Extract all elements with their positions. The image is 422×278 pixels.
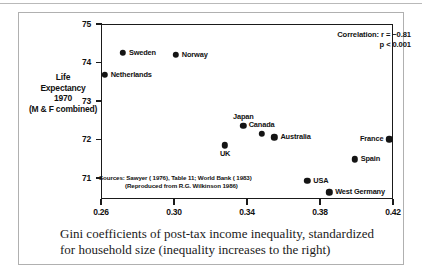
y-axis-tick-label: 74 [67, 57, 91, 67]
y-axis-tick-label: 73 [67, 96, 91, 106]
figure-caption: Gini coefficients of post-tax income ine… [60, 226, 390, 258]
data-point-label: West Germany [335, 188, 385, 196]
correlation-annotation: Correlation: r = −0.81 p < 0.001 [337, 30, 411, 49]
y-axis-tick [96, 100, 102, 101]
x-axis-tick-label: 0.42 [375, 207, 411, 217]
y-axis-tick-label: 71 [67, 173, 91, 183]
y-axis-label: Life Expectancy 1970 (M & F combined) [26, 72, 100, 114]
y-axis-label-line-2: Expectancy [26, 83, 100, 94]
data-point-label: Netherlands [111, 71, 152, 79]
y-axis-tick-label: 75 [67, 19, 91, 29]
sources-line-2: (Reproduced from R.G. Wilkinson 1986) [99, 182, 252, 190]
x-axis-tick-label: 0.30 [156, 207, 192, 217]
y-axis-tick-label: 72 [67, 134, 91, 144]
data-point-label: Spain [361, 155, 380, 163]
sources-line-1: Sources: Sawyer ( 1976), Table 11; World… [99, 174, 252, 182]
data-point-label: Sweden [129, 49, 156, 57]
y-axis-label-line-1: Life [26, 72, 100, 83]
x-axis-tick [319, 199, 320, 205]
correlation-r-text: Correlation: r = −0.81 [337, 30, 411, 40]
x-axis-tick [246, 199, 247, 205]
data-point-label: Norway [182, 51, 208, 59]
y-axis-tick [96, 23, 102, 24]
y-axis-tick [96, 177, 102, 178]
page-top-rule [0, 3, 422, 4]
correlation-p-text: p < 0.001 [337, 40, 411, 50]
x-axis-tick [100, 199, 101, 205]
data-point-label: Australia [280, 133, 310, 141]
data-point-label: USA [313, 177, 328, 185]
x-axis-tick-label: 0.34 [229, 207, 265, 217]
y-axis-tick [96, 139, 102, 140]
x-axis-tick-label: 0.26 [83, 207, 119, 217]
data-point-label: France [360, 135, 383, 143]
data-point-label: Canada [249, 121, 275, 129]
sources-note: Sources: Sawyer ( 1976), Table 11; World… [99, 174, 252, 190]
data-point-label: UK [220, 150, 230, 158]
y-axis-tick [96, 62, 102, 63]
x-axis-tick [173, 199, 174, 205]
figure-container: Life Expectancy 1970 (M & F combined) Co… [0, 0, 422, 278]
x-axis-tick-label: 0.38 [302, 207, 338, 217]
x-axis-tick [392, 199, 393, 205]
